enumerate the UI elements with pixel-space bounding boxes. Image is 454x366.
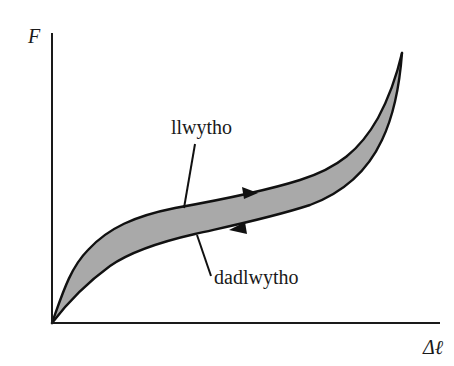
unloading-leader-line: [197, 235, 211, 276]
loading-leader-line: [184, 144, 195, 208]
hysteresis-diagram: [0, 0, 454, 366]
y-axis-label: F: [28, 26, 40, 46]
x-axis-label: Δℓ: [423, 337, 443, 357]
loading-label: llwytho: [171, 117, 232, 137]
unloading-label: dadlwytho: [214, 267, 298, 287]
